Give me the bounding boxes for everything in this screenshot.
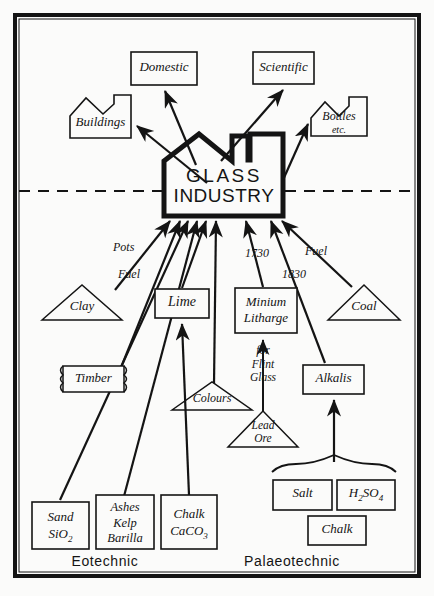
h2so4-sub2: 4 — [379, 493, 384, 503]
arrow-to-bottles — [283, 124, 308, 180]
sand-sub: 2 — [68, 533, 73, 543]
era-label-palaeotechnic: Palaeotechnic — [222, 553, 362, 569]
center-label-line2: INDUSTRY — [168, 186, 280, 205]
edge-label-fuel-right: Fuel — [305, 245, 327, 258]
ashes-line2: Kelp — [113, 516, 137, 530]
arrow-sand-to-factory — [60, 221, 188, 500]
input-label-coal: Coal — [324, 299, 404, 313]
output-label-bottles-line1: Bottles — [322, 109, 355, 123]
input-label-timber: Timber — [63, 371, 124, 385]
center-label-line1: GLASS — [168, 166, 280, 185]
h2so4-h: H — [349, 485, 358, 500]
input-label-chalk: Chalk — [308, 522, 366, 536]
sand-line1: Sand — [48, 509, 74, 524]
ashes-line3: Barilla — [107, 531, 142, 545]
flint-line1: for — [256, 344, 269, 356]
output-label-buildings: Buildings — [70, 115, 131, 129]
output-label-scientific: Scientific — [253, 60, 314, 74]
input-label-lime: Lime — [155, 295, 209, 310]
edge-label-for-flint-glass: for Flint Glass — [238, 344, 288, 385]
sand-line2: SiO — [49, 526, 69, 541]
output-label-bottles: Bottles etc. — [311, 110, 367, 135]
input-label-chalk-caco3: Chalk CaCO3 — [161, 506, 217, 542]
edge-label-1730: 1730 — [245, 247, 269, 260]
ashes-line1: Ashes — [110, 500, 139, 514]
arrow-ashes-to-factory — [123, 221, 197, 500]
edge-label-fuel-left: Fuel — [118, 268, 140, 281]
flint-line3: Glass — [250, 371, 276, 383]
edge-label-pots: Pots — [113, 241, 134, 254]
output-label-domestic: Domestic — [131, 60, 197, 74]
input-label-salt: Salt — [273, 486, 332, 500]
input-label-sand: Sand SiO2 — [32, 509, 89, 545]
chalk1-line2: CaCO — [170, 523, 203, 538]
input-label-clay: Clay — [42, 299, 122, 313]
input-label-minium-litharge: Minium Litharge — [235, 294, 297, 327]
center-label: GLASS INDUSTRY — [168, 166, 280, 205]
era-label-eotechnic: Eotechnic — [45, 553, 165, 569]
output-label-bottles-line2: etc. — [332, 124, 346, 135]
minium-line2: Litharge — [244, 310, 288, 325]
h2so4-so: SO — [363, 485, 379, 500]
input-label-lead-ore: Lead Ore — [228, 419, 298, 445]
chalk1-sub: 3 — [203, 530, 208, 540]
leadore-line2: Ore — [254, 432, 271, 444]
diagram-canvas: Domestic Scientific Buildings Bottles et… — [0, 0, 434, 596]
arrow-colours-to-factory — [214, 221, 216, 384]
input-label-alkalis: Alkalis — [303, 371, 364, 385]
flint-line2: Flint — [252, 358, 274, 370]
chalk1-line1: Chalk — [173, 506, 204, 521]
leadore-line1: Lead — [252, 419, 275, 431]
input-label-h2so4: H2SO4 — [337, 486, 395, 503]
input-label-ashes: Ashes Kelp Barilla — [96, 500, 154, 547]
input-label-colours: Colours — [172, 392, 252, 405]
minium-line1: Minium — [246, 294, 286, 309]
edge-label-1830: 1830 — [282, 268, 306, 281]
